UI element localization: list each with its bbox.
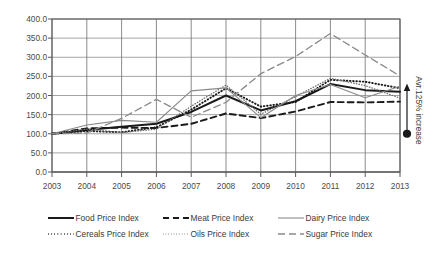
y-axis-tick-labels: 0.050.0100.0150.0200.0250.0300.0350.0400… xyxy=(26,14,47,177)
y-axis-tick-label: 0.0 xyxy=(35,167,47,177)
x-axis-tick-label: 2011 xyxy=(321,181,339,191)
y-axis-tick-label: 150.0 xyxy=(26,110,47,120)
y-axis-tick-label: 200.0 xyxy=(26,91,47,101)
x-axis-tick-label: 2013 xyxy=(391,181,410,191)
x-axis-tick-label: 2007 xyxy=(182,181,201,191)
legend-label-dairy-price-index: Dairy Price Index xyxy=(306,213,371,223)
y-axis-tick-label: 350.0 xyxy=(26,33,47,43)
increase-annotation-label: Avr.125% increase xyxy=(414,76,423,145)
y-axis-tick-label: 50.0 xyxy=(31,148,48,158)
x-axis-tick-label: 2006 xyxy=(147,181,166,191)
x-axis-tick-label: 2008 xyxy=(217,181,236,191)
legend-label-sugar-price-index: Sugar Price Index xyxy=(306,229,373,239)
x-axis-tick-label: 2009 xyxy=(252,181,271,191)
x-axis-tick-label: 2010 xyxy=(286,181,305,191)
x-axis-tick-label: 2004 xyxy=(78,181,97,191)
x-axis-tick-label: 2005 xyxy=(112,181,131,191)
x-axis-tick-labels: 2003200420052006200720082009201020112012… xyxy=(43,181,410,191)
price-index-line-chart: 0.050.0100.0150.0200.0250.0300.0350.0400… xyxy=(0,0,434,255)
legend-label-meat-price-index: Meat Price Index xyxy=(191,213,255,223)
y-axis-tick-label: 400.0 xyxy=(26,14,47,24)
chart-svg: 0.050.0100.0150.0200.0250.0300.0350.0400… xyxy=(0,0,434,255)
y-axis-tickmarks xyxy=(48,19,52,172)
x-axis-tick-label: 2003 xyxy=(43,181,62,191)
x-axis-tickmarks xyxy=(52,172,400,177)
legend-label-oils-price-index: Oils Price Index xyxy=(191,229,250,239)
legend-label-food-price-index: Food Price Index xyxy=(76,213,140,223)
y-axis-tick-label: 100.0 xyxy=(26,129,47,139)
y-axis-tick-label: 300.0 xyxy=(26,52,47,62)
legend-label-cereals-price-index: Cereals Price Index xyxy=(76,229,150,239)
x-axis-tick-label: 2012 xyxy=(356,181,375,191)
increase-annotation: Avr.125% increase xyxy=(403,76,423,145)
baseline-dot-marker xyxy=(403,130,411,138)
y-axis-tick-label: 250.0 xyxy=(26,71,47,81)
legend: Food Price IndexMeat Price IndexDairy Pr… xyxy=(48,213,373,239)
